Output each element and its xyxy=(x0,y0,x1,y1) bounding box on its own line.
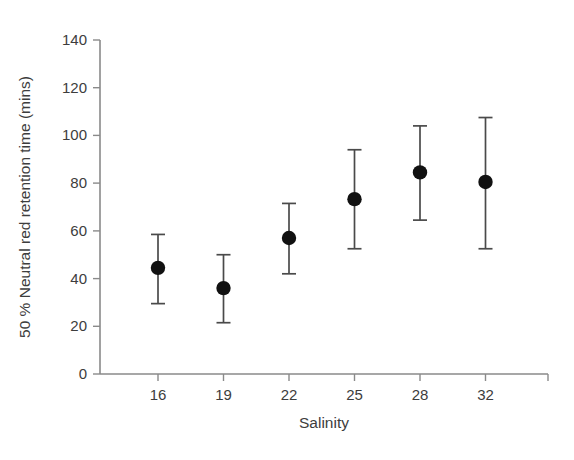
y-tick-label: 80 xyxy=(70,174,87,191)
y-tick-label: 60 xyxy=(70,222,87,239)
data-series xyxy=(151,118,493,323)
x-tick-label: 32 xyxy=(477,386,494,403)
data-point-marker xyxy=(282,231,296,245)
x-axis-title: Salinity xyxy=(299,414,349,431)
y-axis-ticks xyxy=(93,40,100,374)
x-axis-ticks xyxy=(158,374,548,381)
y-tick-label: 0 xyxy=(79,365,87,382)
scatter-plot-with-error-bars: 0 20 40 60 80 100 120 140 16 19 22 25 28 xyxy=(0,0,574,460)
data-point-marker xyxy=(216,281,230,295)
x-tick-label: 25 xyxy=(346,386,363,403)
x-tick-label: 28 xyxy=(412,386,429,403)
y-tick-label: 120 xyxy=(62,79,87,96)
data-point-marker xyxy=(478,175,492,189)
x-axis-tick-labels: 16 19 22 25 28 32 xyxy=(150,386,494,403)
chart-figure: 0 20 40 60 80 100 120 140 16 19 22 25 28 xyxy=(0,0,574,460)
y-tick-label: 20 xyxy=(70,317,87,334)
y-tick-label: 40 xyxy=(70,270,87,287)
x-tick-label: 19 xyxy=(215,386,232,403)
data-point-marker xyxy=(347,192,361,206)
y-axis-title: 50 % Neutral red retention time (mins) xyxy=(16,76,33,338)
y-tick-label: 140 xyxy=(62,31,87,48)
x-tick-label: 16 xyxy=(150,386,167,403)
y-axis-tick-labels: 0 20 40 60 80 100 120 140 xyxy=(62,31,87,382)
data-point-marker xyxy=(413,165,427,179)
data-point-marker xyxy=(151,261,165,275)
x-tick-label: 22 xyxy=(281,386,298,403)
y-tick-label: 100 xyxy=(62,126,87,143)
